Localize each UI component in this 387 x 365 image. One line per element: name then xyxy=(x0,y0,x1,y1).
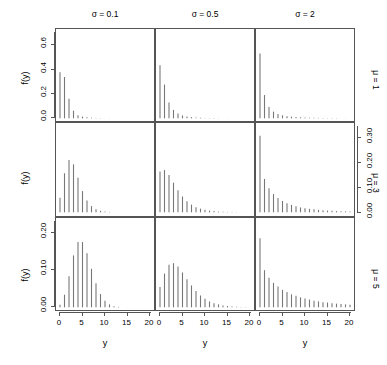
y-tick-mark xyxy=(51,44,55,45)
y-tick-mark xyxy=(51,269,55,270)
column-header-sigma-2: σ = 2 xyxy=(255,9,355,19)
x-tick-label: 0 xyxy=(49,318,69,327)
y-tick-label: 0.20 xyxy=(39,217,48,243)
spikes xyxy=(156,29,254,121)
y-axis-title-row1: f(y) xyxy=(20,158,30,198)
y-axis-line xyxy=(54,221,55,307)
x-tick-mark xyxy=(59,312,60,316)
x-tick-label: 10 xyxy=(194,318,214,327)
x-tick-label: 15 xyxy=(117,318,137,327)
x-tick-mark xyxy=(149,312,150,316)
x-tick-label: 5 xyxy=(72,318,92,327)
x-axis-line xyxy=(259,312,351,313)
y-tick-label: 0.30 xyxy=(365,123,374,149)
x-tick-mark xyxy=(182,312,183,316)
x-tick-label: 5 xyxy=(272,318,292,327)
spikes xyxy=(156,218,254,310)
spikes xyxy=(56,218,154,310)
x-tick-label: 15 xyxy=(217,318,237,327)
x-tick-label: 15 xyxy=(317,318,337,327)
y-axis-title-row2: f(y) xyxy=(20,255,30,295)
y-tick-label: 0.20 xyxy=(365,148,374,174)
panel-mu1-sigma0.5 xyxy=(155,28,255,122)
x-axis-line xyxy=(159,312,251,313)
x-tick-label: 5 xyxy=(172,318,192,327)
y-tick-label: 0.6 xyxy=(39,30,48,56)
y-tick-mark xyxy=(51,117,55,118)
y-axis-mu5: 0.000.100.20 xyxy=(31,217,55,311)
y-tick-mark xyxy=(357,162,361,163)
y-tick-mark xyxy=(357,187,361,188)
x-axis-sigma0.5: 05101520 xyxy=(155,312,255,334)
x-tick-mark xyxy=(249,312,250,316)
panel-mu1-sigma2 xyxy=(255,28,355,122)
x-axis-line xyxy=(59,312,151,313)
spikes xyxy=(56,29,154,121)
chart-root: σ = 0.1 σ = 0.5 σ = 2 μ = 1 μ = 3 μ = 5 … xyxy=(0,0,387,365)
x-tick-label: 10 xyxy=(94,318,114,327)
y-tick-mark xyxy=(51,69,55,70)
x-tick-label: 0 xyxy=(149,318,169,327)
y-tick-label: 0.2 xyxy=(39,79,48,105)
x-axis-sigma2: 05101520 xyxy=(255,312,355,334)
spikes xyxy=(256,218,354,310)
panel-mu3-sigma0.5 xyxy=(155,122,255,216)
spikes xyxy=(56,123,154,215)
y-tick-mark xyxy=(51,232,55,233)
x-tick-label: 10 xyxy=(294,318,314,327)
y-tick-label: 0.4 xyxy=(39,54,48,80)
y-tick-label: 0.10 xyxy=(39,254,48,280)
panel-mu5-sigma0.5 xyxy=(155,217,255,311)
x-tick-mark xyxy=(349,312,350,316)
y-axis-title-row0: f(y) xyxy=(20,58,30,98)
panel-mu3-sigma0.1 xyxy=(55,122,155,216)
y-tick-label: 0.00 xyxy=(39,291,48,317)
x-tick-mark xyxy=(104,312,105,316)
y-tick-label: 0.00 xyxy=(365,197,374,223)
y-tick-mark xyxy=(357,212,361,213)
y-axis-mu1: 0.00.20.40.6 xyxy=(31,28,55,122)
column-header-sigma-0: σ = 0.1 xyxy=(55,9,155,19)
y-tick-label: 0.0 xyxy=(39,103,48,129)
x-tick-mark xyxy=(82,312,83,316)
x-tick-mark xyxy=(127,312,128,316)
row-header-mu-2: μ = 5 xyxy=(371,249,381,309)
x-tick-mark xyxy=(159,312,160,316)
x-tick-mark xyxy=(304,312,305,316)
x-tick-mark xyxy=(282,312,283,316)
x-tick-mark xyxy=(204,312,205,316)
panel-mu5-sigma0.1 xyxy=(55,217,155,311)
row-header-mu-0: μ = 1 xyxy=(371,50,381,110)
x-tick-mark xyxy=(327,312,328,316)
panel-mu1-sigma0.1 xyxy=(55,28,155,122)
y-tick-mark xyxy=(51,93,55,94)
x-tick-label: 0 xyxy=(249,318,269,327)
x-axis-title-col1: y xyxy=(155,338,255,348)
y-axis-line xyxy=(357,126,358,212)
x-tick-mark xyxy=(259,312,260,316)
panel-mu5-sigma2 xyxy=(255,217,355,311)
y-tick-label: 0.10 xyxy=(365,172,374,198)
spikes xyxy=(256,29,354,121)
x-axis-title-col2: y xyxy=(255,338,355,348)
column-header-sigma-1: σ = 0.5 xyxy=(155,9,255,19)
y-tick-mark xyxy=(51,306,55,307)
y-tick-mark xyxy=(357,137,361,138)
x-tick-mark xyxy=(227,312,228,316)
spikes xyxy=(256,123,354,215)
x-tick-label: 20 xyxy=(339,318,359,327)
panel-mu3-sigma2 xyxy=(255,122,355,216)
y-axis-mu3: 0.000.100.200.30 xyxy=(357,122,381,216)
x-axis-title-col0: y xyxy=(55,338,155,348)
x-axis-sigma0.1: 05101520 xyxy=(55,312,155,334)
spikes xyxy=(156,123,254,215)
